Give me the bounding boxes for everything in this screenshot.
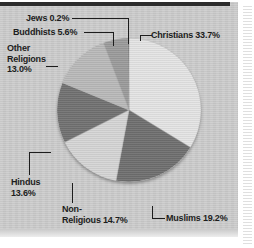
leader-line-jews-drop — [128, 18, 129, 44]
leader-line-hindus — [29, 152, 30, 175]
leader-line-hindus-arm — [29, 152, 51, 153]
slice-label-other-religions: Other Religions 13.0% — [7, 43, 46, 75]
pie-svg — [57, 38, 201, 182]
pie-container — [57, 38, 201, 182]
bottom-shading — [0, 229, 238, 237]
leader-line-buddhists-drop — [113, 32, 114, 46]
leader-line-jews — [72, 18, 129, 19]
slice-label-hindus: Hindus 13.6% — [11, 177, 40, 198]
slice-label-christians: Christians 33.7% — [151, 30, 220, 41]
pie-slices — [57, 38, 201, 182]
bottom-white-band — [0, 237, 254, 248]
top-divider-rule — [0, 2, 230, 6]
leader-line-non-religious — [72, 183, 73, 203]
leader-line-other-religions — [46, 66, 58, 67]
leader-line-muslims-rise — [152, 206, 153, 219]
leader-line-buddhists — [84, 32, 114, 33]
leader-line-christians-drop — [140, 35, 141, 41]
right-margin — [238, 0, 254, 248]
pie-chart-figure: Jews 0.2% Buddhists 5.6% Other Religions… — [0, 0, 254, 248]
slice-label-muslims: Muslims 19.2% — [166, 213, 227, 224]
ruler-dots — [243, 6, 252, 244]
slice-label-jews: Jews 0.2% — [26, 13, 69, 24]
slice-label-buddhists: Buddhists 5.6% — [13, 27, 77, 38]
leader-line-muslims — [152, 218, 165, 219]
slice-label-non-religious: Non- Religious 14.7% — [62, 204, 128, 225]
pie-graphic — [57, 38, 201, 182]
